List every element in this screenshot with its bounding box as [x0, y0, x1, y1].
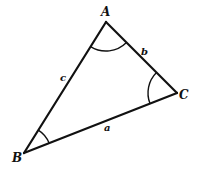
side-c-label: c — [60, 72, 66, 83]
vertex-c-label: C — [179, 88, 189, 102]
side-b-label: b — [141, 46, 148, 57]
side-c-line — [24, 22, 106, 153]
angle-b-arc — [38, 130, 49, 143]
side-a-label: a — [104, 122, 110, 133]
angle-a-arc — [91, 43, 127, 52]
vertex-b-label: B — [11, 151, 22, 165]
triangle-diagram: A B C a b c — [0, 0, 198, 173]
angle-c-arc — [148, 73, 157, 104]
side-b-line — [106, 22, 177, 93]
side-a-line — [24, 93, 177, 153]
vertex-a-label: A — [100, 5, 110, 19]
